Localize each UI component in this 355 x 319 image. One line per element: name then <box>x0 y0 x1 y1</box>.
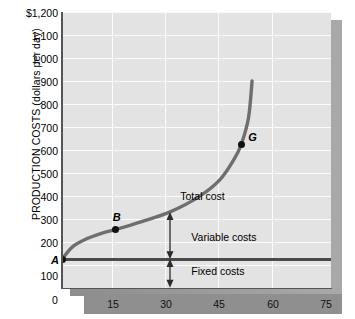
fixed-costs-label: Fixed costs <box>191 265 244 277</box>
y-tick-400: 400 <box>2 192 58 202</box>
total-cost-curve <box>62 12 331 288</box>
x-tick-0: 0 <box>40 294 70 306</box>
x-tick-60: 60 <box>258 298 288 310</box>
y-tick-1000: 1,000 <box>2 54 58 64</box>
x-axis-line <box>61 288 332 289</box>
y-tick-1200: $1,200 <box>2 8 58 18</box>
chart-figure: PRODUCTION COSTS (dollars per day) $1,20… <box>0 0 355 319</box>
y-tick-300: 300 <box>2 215 58 225</box>
point-b-label: B <box>113 211 121 223</box>
y-tick-600: 600 <box>2 146 58 156</box>
total-cost-label: Total cost <box>180 190 224 202</box>
y-tick-1100: 1,100 <box>2 31 58 41</box>
point-g-dot <box>238 141 245 148</box>
y-axis-tick-labels: $1,200 1,100 1,000 900 800 700 600 500 4… <box>0 0 58 319</box>
variable-costs-arrow <box>162 212 178 259</box>
y-tick-500: 500 <box>2 169 58 179</box>
point-a-label: A <box>51 254 59 266</box>
x-tick-30: 30 <box>151 298 181 310</box>
x-tick-75: 75 <box>311 298 341 310</box>
x-tick-45: 45 <box>204 298 234 310</box>
variable-costs-label: Variable costs <box>191 231 256 243</box>
y-tick-100: 100 <box>2 271 58 281</box>
fixed-costs-arrow <box>162 259 178 288</box>
y-tick-200: 200 <box>2 238 58 248</box>
y-tick-800: 800 <box>2 100 58 110</box>
y-axis-line <box>61 12 63 289</box>
point-g-label: G <box>248 131 257 143</box>
y-tick-700: 700 <box>2 123 58 133</box>
y-tick-900: 900 <box>2 77 58 87</box>
plot-area: Total cost Variable costs Fixed costs B … <box>62 12 331 288</box>
x-tick-15: 15 <box>98 298 128 310</box>
